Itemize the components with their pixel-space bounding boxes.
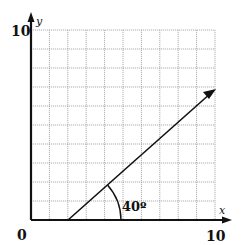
- angle-arc: [108, 185, 122, 220]
- origin-label: 0: [17, 227, 27, 243]
- angle-label: 40º: [122, 199, 147, 214]
- y-max-label: 10: [11, 23, 31, 39]
- x-axis-label: x: [219, 204, 226, 217]
- grid: [31, 30, 215, 220]
- x-axis-arrow-icon: [222, 217, 232, 224]
- y-axis-label: y: [35, 15, 43, 28]
- x-max-label: 10: [206, 228, 226, 244]
- coordinate-diagram: 10 y 0 10 x 40º: [0, 0, 242, 245]
- y-axis-arrow-icon: [28, 12, 35, 22]
